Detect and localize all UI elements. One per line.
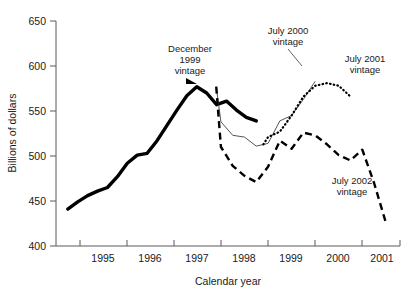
annotation-july-2001-vintage: July 2001 vintage — [345, 53, 386, 75]
annotation-line-1: July 2002 — [332, 175, 373, 186]
y-tick-label-600: 600 — [28, 60, 46, 72]
annotation-line-1: July 2000 — [268, 25, 309, 36]
x-tick-label-1999: 1999 — [279, 252, 303, 264]
y-axis-ticks — [50, 21, 56, 246]
annotation-december-1999-vintage: December 1999 vintage — [168, 43, 212, 84]
x-tick-label-1995: 1995 — [91, 252, 115, 264]
line-chart: 650 600 550 500 450 400 1995 1996 1997 1… — [0, 0, 420, 291]
x-tick-label-1997: 1997 — [185, 252, 209, 264]
x-tick-label-1998: 1998 — [232, 252, 256, 264]
y-tick-label-400: 400 — [28, 240, 46, 252]
annotation-line-1: July 2001 — [345, 53, 386, 64]
y-tick-label-650: 650 — [28, 15, 46, 27]
annotation-line-2: vintage — [337, 186, 368, 197]
series-line-july-2002-vintage — [216, 87, 386, 223]
series-line-december-1999-vintage — [68, 87, 256, 209]
y-tick-label-550: 550 — [28, 105, 46, 117]
x-axis-ticks — [80, 240, 400, 246]
y-axis-tick-labels: 650 600 550 500 450 400 — [28, 15, 46, 252]
annotation-line-2: 1999 — [179, 54, 200, 65]
annotation-july-2000-vintage: July 2000 vintage — [268, 25, 309, 66]
x-tick-label-1996: 1996 — [138, 252, 162, 264]
x-axis-title: Calendar year — [195, 275, 261, 287]
annotation-arrow-icon — [186, 78, 197, 84]
y-tick-label-500: 500 — [28, 150, 46, 162]
annotation-line-1: December — [168, 43, 212, 54]
y-axis-title: Billions of dollars — [6, 94, 18, 173]
series-line-july-2001-vintage — [263, 83, 350, 144]
y-tick-label-450: 450 — [28, 195, 46, 207]
x-tick-label-2000: 2000 — [326, 252, 350, 264]
annotation-leader-line — [288, 49, 302, 66]
x-axis-tick-labels: 1995 1996 1997 1998 1999 2000 2001 — [91, 252, 394, 264]
annotation-line-2: vintage — [273, 36, 304, 47]
annotation-line-3: vintage — [175, 65, 206, 76]
x-tick-label-2001: 2001 — [370, 252, 394, 264]
annotation-line-2: vintage — [350, 64, 381, 75]
chart-container: 650 600 550 500 450 400 1995 1996 1997 1… — [0, 0, 420, 291]
annotation-july-2002-vintage: July 2002 vintage — [332, 175, 373, 197]
